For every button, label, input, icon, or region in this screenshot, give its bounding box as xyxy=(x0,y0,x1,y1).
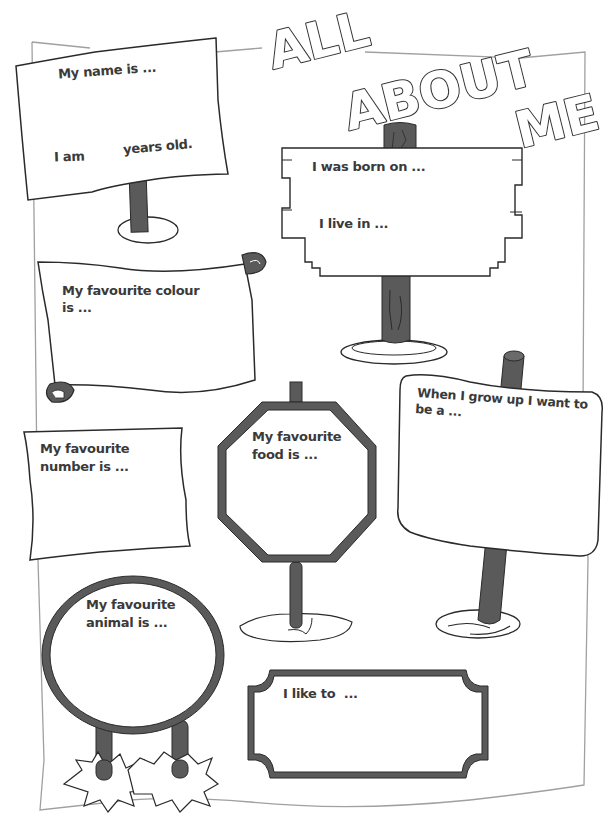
age-prompt-left: I am xyxy=(54,147,85,165)
food-prompt-line1: My favourite xyxy=(252,428,341,445)
colour-scroll xyxy=(38,253,266,403)
animal-prompt-line2: animal is ... xyxy=(86,614,167,631)
food-prompt-line2: food is ... xyxy=(252,446,318,463)
colour-prompt-line2: is ... xyxy=(62,299,92,316)
born-prompt: I was born on ... xyxy=(312,158,425,175)
live-prompt: I live in ... xyxy=(319,215,388,232)
animal-prompt-line1: My favourite xyxy=(86,596,175,613)
worksheet-artwork: ALL ABOUT ME xyxy=(0,0,614,828)
like-prompt: I like to ... xyxy=(283,685,358,702)
colour-prompt-line1: My favourite colour xyxy=(62,282,199,299)
number-prompt-line1: My favourite xyxy=(40,440,129,457)
food-octagon xyxy=(218,382,376,642)
number-prompt-line2: number is ... xyxy=(40,458,129,475)
title-all: ALL xyxy=(262,0,375,81)
title-group: ALL ABOUT ME xyxy=(262,0,605,160)
grow-up-prompt-line2: be a ... xyxy=(415,400,462,420)
